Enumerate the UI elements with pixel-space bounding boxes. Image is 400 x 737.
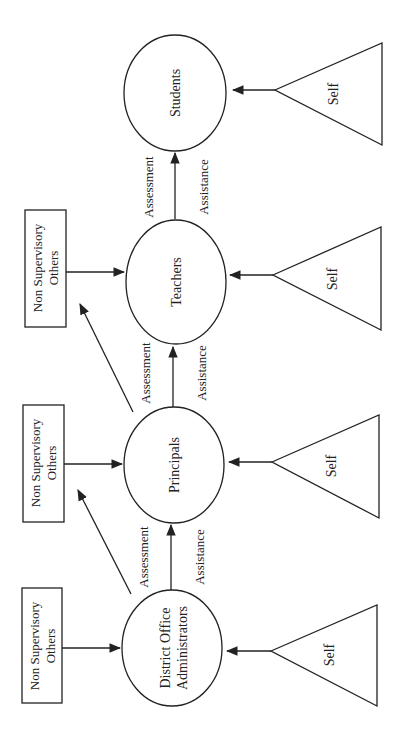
evaluation-flow-diagram: Students Self Assessment Assistance Teac… — [0, 0, 400, 737]
edge-label-assessment: Assessment — [141, 156, 156, 218]
self-label: Self — [324, 454, 339, 477]
node-district-office-administrators: District Office Administrators — [122, 590, 222, 706]
nso-line2: Others — [43, 629, 58, 664]
edge-label-assistance: Assistance — [194, 345, 209, 401]
node-principals-label: Principals — [167, 437, 182, 493]
nso-line2: Others — [46, 251, 61, 286]
diagonal-arrow-icon — [78, 490, 131, 594]
node-district-label-line1: District Office — [158, 608, 173, 689]
edge-principals-teachers: Assessment Assistance — [138, 342, 209, 407]
non-supervisory-teachers: Non Supervisory Others — [25, 210, 124, 327]
non-supervisory-district: Non Supervisory Others — [22, 588, 120, 703]
self-source-students: Self — [233, 43, 382, 145]
edge-label-assessment: Assessment — [138, 342, 153, 404]
node-students: Students — [124, 35, 226, 151]
edge-teachers-students: Assessment Assistance — [141, 153, 211, 219]
edge-district-principals: Assessment Assistance — [136, 525, 207, 590]
node-teachers-label: Teachers — [169, 257, 184, 307]
node-principals: Principals — [124, 407, 224, 523]
diagonal-arrow-icon — [80, 304, 133, 412]
nso-line1: Non Supervisory — [27, 601, 42, 690]
edge-label-assistance: Assistance — [196, 159, 211, 215]
nso-line2: Others — [44, 446, 59, 481]
edge-label-assessment: Assessment — [136, 526, 151, 588]
self-label: Self — [326, 82, 341, 105]
nso-line1: Non Supervisory — [28, 418, 43, 507]
nso-line1: Non Supervisory — [30, 223, 45, 312]
self-label: Self — [325, 267, 340, 290]
self-source-district: Self — [227, 605, 377, 706]
node-teachers: Teachers — [126, 220, 226, 344]
non-supervisory-principals: Non Supervisory Others — [23, 405, 122, 522]
self-source-principals: Self — [229, 415, 379, 518]
self-source-teachers: Self — [230, 227, 381, 330]
self-label: Self — [322, 643, 337, 666]
node-district-label-line2: Administrators — [175, 606, 190, 690]
edge-label-assistance: Assistance — [192, 529, 207, 585]
node-students-label: Students — [168, 69, 183, 117]
